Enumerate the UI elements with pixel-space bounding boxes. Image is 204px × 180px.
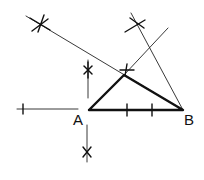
construction-line-apex-ray — [124, 28, 168, 75]
triangle-ACB — [89, 75, 183, 110]
construction-diagram: A B — [0, 0, 204, 180]
arc-cross-above-A — [84, 62, 92, 78]
point-label-A: A — [73, 111, 83, 128]
point-label-B: B — [184, 111, 194, 128]
arc-cross-apex — [120, 64, 134, 76]
arc-cross-upper-left — [30, 15, 50, 32]
